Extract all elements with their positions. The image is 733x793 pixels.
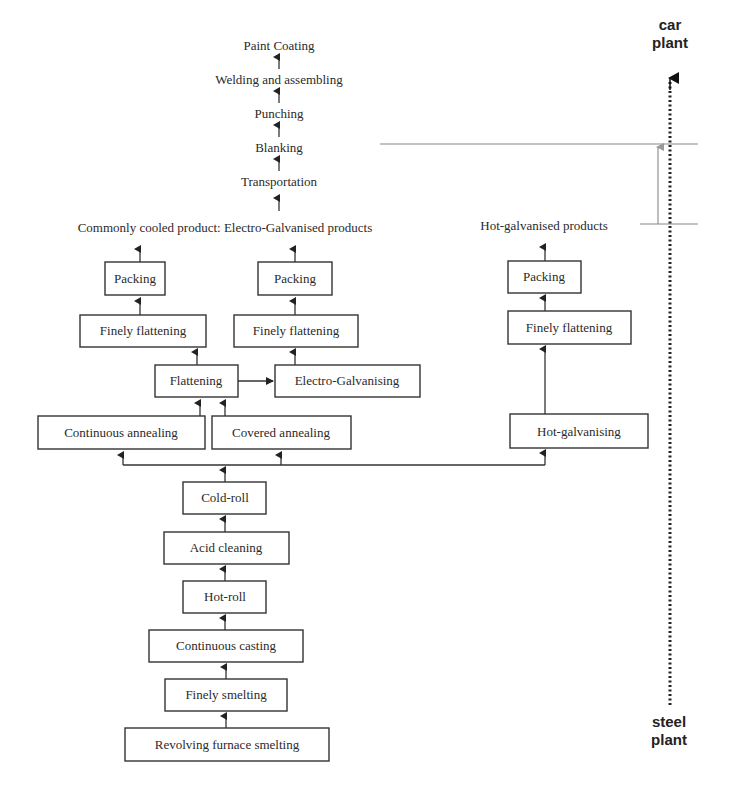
revolving-furnace-smelting-label: Revolving furnace smelting [155, 737, 300, 752]
acid-cleaning-label: Acid cleaning [190, 540, 263, 555]
steel-plant-label-line1: steel [652, 713, 686, 730]
finely-smelting-label: Finely smelting [185, 687, 267, 702]
finely-flattening-left-label: Finely flattening [100, 323, 187, 338]
steel-plant-label-line2: plant [651, 731, 687, 748]
step-punching: Punching [254, 106, 304, 121]
continuous-annealing-label: Continuous annealing [64, 425, 178, 440]
label-hot-galvanised-products: Hot-galvanised products [480, 218, 607, 233]
label-electro-galvanised-products: Commonly cooled product: Electro-Galvani… [78, 220, 373, 235]
packing-middle-label: Packing [274, 271, 316, 286]
steel-to-car-process-flow: Paint Coating Welding and assembling Pun… [0, 0, 733, 793]
finely-flattening-middle-label: Finely flattening [253, 323, 340, 338]
hot-roll-label: Hot-roll [204, 589, 246, 604]
step-paint-coating: Paint Coating [243, 38, 315, 53]
step-blanking: Blanking [255, 140, 303, 155]
packing-right-label: Packing [523, 269, 565, 284]
step-welding-assembling: Welding and assembling [215, 72, 343, 87]
packing-left-label: Packing [114, 271, 156, 286]
electro-galvanising-label: Electro-Galvanising [295, 373, 400, 388]
continuous-casting-label: Continuous casting [176, 638, 277, 653]
covered-annealing-label: Covered annealing [232, 425, 330, 440]
finely-flattening-right-label: Finely flattening [526, 320, 613, 335]
car-plant-label-line2: plant [652, 34, 688, 51]
car-plant-label-line1: car [659, 16, 682, 33]
flattening-label: Flattening [170, 373, 223, 388]
step-transportation: Transportation [241, 174, 318, 189]
cold-roll-label: Cold-roll [201, 490, 249, 505]
hot-galvanising-label: Hot-galvanising [537, 424, 621, 439]
